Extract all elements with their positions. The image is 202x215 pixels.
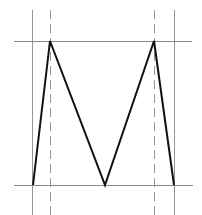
letter-m-stroke bbox=[33, 41, 174, 185]
diagram-svg bbox=[0, 0, 202, 215]
letter-m-construction-diagram bbox=[0, 0, 202, 215]
